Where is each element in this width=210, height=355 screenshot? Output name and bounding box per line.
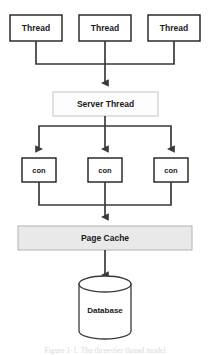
- figure-canvas: Thread Thread Thread Server Thread: [0, 0, 210, 355]
- architecture-diagram: Thread Thread Thread Server Thread: [0, 0, 210, 355]
- con-box-2-label: con: [98, 166, 112, 175]
- thread-box-1-label: Thread: [22, 23, 50, 33]
- page-cache-label: Page Cache: [81, 233, 129, 243]
- thread-box-2[interactable]: Thread: [79, 15, 131, 41]
- thread-box-1[interactable]: Thread: [10, 15, 62, 41]
- edge-threads-to-server: [36, 41, 174, 83]
- figure-caption: Figure 1-1. The three-tier thread model: [0, 346, 210, 355]
- client-thread-group: Thread Thread Thread: [10, 15, 200, 41]
- con-box-3[interactable]: con: [154, 158, 188, 182]
- con-box-1[interactable]: con: [22, 158, 56, 182]
- edge-connections-to-cache: [39, 182, 171, 217]
- connection-group: con con con: [22, 158, 188, 182]
- con-box-1-label: con: [32, 166, 46, 175]
- server-thread-box[interactable]: Server Thread: [53, 92, 158, 116]
- con-box-3-label: con: [164, 166, 178, 175]
- edge-server-to-connections: [39, 116, 171, 149]
- page-cache-box[interactable]: Page Cache: [18, 226, 192, 250]
- database-label: Database: [87, 306, 123, 315]
- thread-box-2-label: Thread: [91, 23, 119, 33]
- thread-box-3-label: Thread: [160, 23, 188, 33]
- thread-box-3[interactable]: Thread: [148, 15, 200, 41]
- database-cylinder[interactable]: Database: [79, 276, 131, 339]
- con-box-2[interactable]: con: [88, 158, 122, 182]
- server-thread-label: Server Thread: [77, 99, 134, 109]
